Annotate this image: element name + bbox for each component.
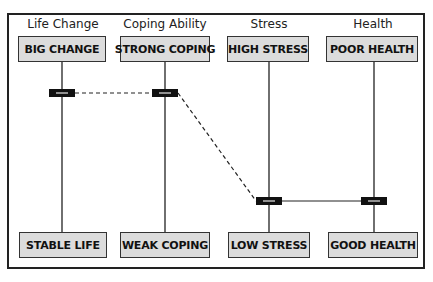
column-title-coping-ability: Coping Ability	[110, 17, 220, 31]
box-good-health: GOOD HEALTH	[328, 232, 418, 258]
connector-coping-ability-to-stress	[178, 93, 256, 201]
box-high-stress: HIGH STRESS	[227, 36, 309, 62]
box-low-stress: LOW STRESS	[228, 232, 310, 258]
column-title-stress: Stress	[214, 17, 324, 31]
column-title-health: Health	[318, 17, 428, 31]
box-weak-coping: WEAK COPING	[120, 232, 210, 258]
box-strong-coping: STRONG COPING	[120, 36, 210, 62]
caption-cutoff	[0, 274, 433, 282]
box-big-change: BIG CHANGE	[18, 36, 106, 62]
box-stable-life: STABLE LIFE	[19, 232, 107, 258]
box-poor-health: POOR HEALTH	[326, 36, 418, 62]
column-title-life-change: Life Change	[8, 17, 118, 31]
